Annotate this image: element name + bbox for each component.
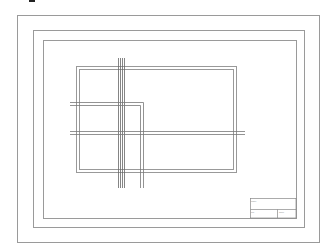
inner-frame	[44, 41, 297, 219]
drawing-canvas	[0, 0, 333, 251]
horizontal-lines-pair	[70, 132, 245, 135]
vertical-lines-pair-a	[119, 58, 125, 188]
corner-mark	[29, 0, 35, 2]
title-block-name-label: Name	[251, 200, 256, 202]
l-shape-lines	[70, 103, 144, 189]
drawing-rect-inner	[80, 70, 234, 170]
title-block-scale-label: Scale	[279, 211, 284, 213]
title-block	[251, 199, 297, 219]
drawing-rect-outer	[77, 67, 237, 173]
outer-frame	[18, 16, 320, 243]
middle-frame	[34, 31, 305, 228]
title-block-ref-label: Ref	[251, 211, 254, 213]
